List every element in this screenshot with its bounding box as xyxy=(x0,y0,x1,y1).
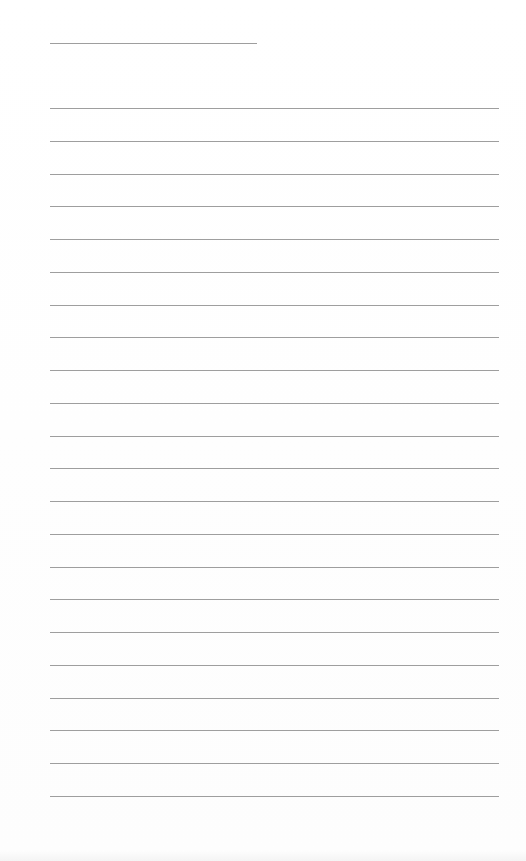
header-line xyxy=(50,43,257,44)
ruled-line xyxy=(50,174,499,175)
ruled-line xyxy=(50,337,499,338)
ruled-line xyxy=(50,239,499,240)
ruled-line xyxy=(50,796,499,797)
ruled-line xyxy=(50,272,499,273)
ruled-line xyxy=(50,468,499,469)
ruled-line xyxy=(50,436,499,437)
lined-paper-page xyxy=(0,0,526,861)
ruled-line xyxy=(50,534,499,535)
ruled-line xyxy=(50,567,499,568)
ruled-line xyxy=(50,730,499,731)
ruled-line xyxy=(50,599,499,600)
ruled-line xyxy=(50,108,499,109)
ruled-line xyxy=(50,206,499,207)
ruled-line xyxy=(50,501,499,502)
ruled-line xyxy=(50,632,499,633)
ruled-line xyxy=(50,763,499,764)
ruled-line xyxy=(50,141,499,142)
ruled-line xyxy=(50,370,499,371)
page-bottom-shadow xyxy=(0,851,526,861)
ruled-line xyxy=(50,698,499,699)
ruled-line xyxy=(50,403,499,404)
ruled-line xyxy=(50,305,499,306)
ruled-line xyxy=(50,665,499,666)
